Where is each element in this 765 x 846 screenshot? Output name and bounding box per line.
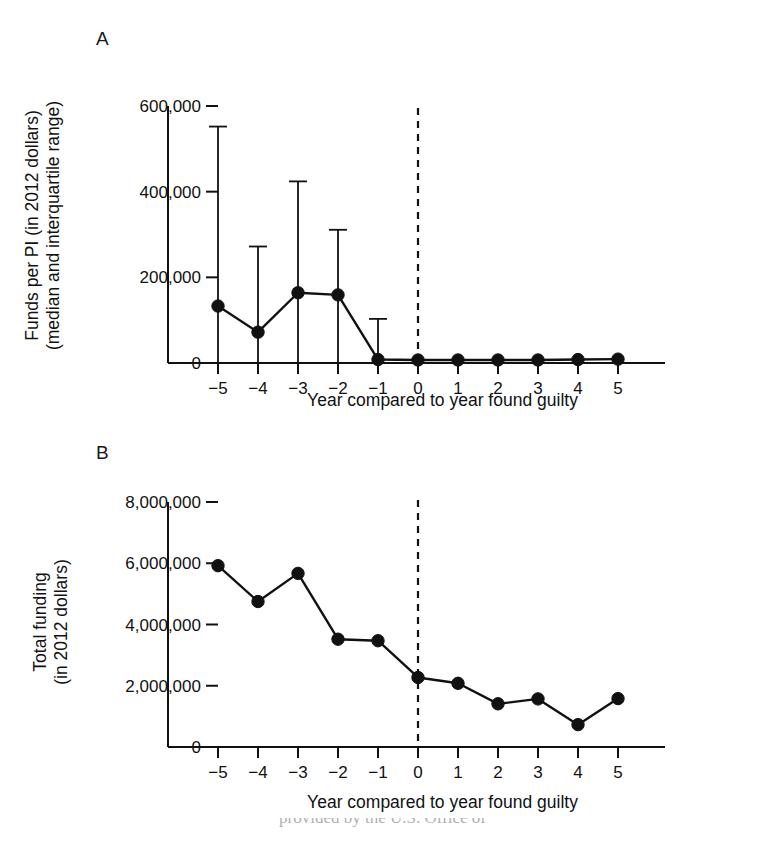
panel-b-x-axis-title: Year compared to year found guilty <box>0 792 765 813</box>
data-point-marker <box>372 635 384 647</box>
x-tick-label: 2 <box>493 763 502 782</box>
x-tick-label: 1 <box>453 763 462 782</box>
y-tick-label: 0 <box>192 354 201 373</box>
panel-b: B Total funding (in 2012 dollars) 02,000… <box>0 420 765 846</box>
x-tick-label: 5 <box>613 763 622 782</box>
data-point-marker <box>332 289 344 301</box>
y-tick-label: 600,000 <box>140 97 201 116</box>
data-point-marker <box>452 677 464 689</box>
data-point-marker <box>332 633 344 645</box>
data-point-marker <box>572 718 584 730</box>
y-tick-label: 2,000,000 <box>125 677 201 696</box>
data-point-marker <box>612 353 624 365</box>
data-point-marker <box>292 287 304 299</box>
data-point-marker <box>252 326 264 338</box>
data-point-marker <box>212 560 224 572</box>
y-tick-label: 400,000 <box>140 183 201 202</box>
x-tick-label: 4 <box>573 763 582 782</box>
y-tick-label: 4,000,000 <box>125 616 201 635</box>
x-tick-label: −4 <box>248 763 267 782</box>
data-point-marker <box>452 354 464 366</box>
panel-a-y-ticks: 0200,000400,000600,000 <box>140 97 218 373</box>
panel-a-x-axis-title: Year compared to year found guilty <box>0 390 765 411</box>
x-tick-label: −1 <box>368 763 387 782</box>
data-point-marker <box>252 595 264 607</box>
x-tick-label: −5 <box>208 763 227 782</box>
caption-fragment-strip: provided by the U.S. Office of <box>0 818 765 846</box>
panel-a-data-points <box>212 287 624 367</box>
panel-b-plot: 02,000,0004,000,0006,000,0008,000,000 −5… <box>0 420 765 846</box>
data-point-marker <box>492 698 504 710</box>
data-point-marker <box>412 354 424 366</box>
data-point-marker <box>532 354 544 366</box>
y-tick-label: 6,000,000 <box>125 554 201 573</box>
panel-b-x-ticks: −5−4−3−2−1012345 <box>208 747 622 782</box>
y-tick-label: 200,000 <box>140 268 201 287</box>
data-point-marker <box>372 353 384 365</box>
y-tick-label: 8,000,000 <box>125 493 201 512</box>
caption-fragment: provided by the U.S. Office of <box>0 818 765 828</box>
panel-a-series-line <box>218 293 618 360</box>
data-point-marker <box>492 354 504 366</box>
panel-a: A Funds per PI (in 2012 dollars) (median… <box>0 0 765 420</box>
data-point-marker <box>412 671 424 683</box>
x-tick-label: 3 <box>533 763 542 782</box>
data-point-marker <box>532 693 544 705</box>
data-point-marker <box>212 300 224 312</box>
data-point-marker <box>292 567 304 579</box>
data-point-marker <box>572 353 584 365</box>
x-tick-label: −3 <box>288 763 307 782</box>
x-tick-label: 0 <box>413 763 422 782</box>
x-tick-label: −2 <box>328 763 347 782</box>
panel-a-error-bars <box>209 127 387 363</box>
data-point-marker <box>612 692 624 704</box>
y-tick-label: 0 <box>192 738 201 757</box>
panel-b-y-ticks: 02,000,0004,000,0006,000,0008,000,000 <box>125 493 218 757</box>
figure-root: A Funds per PI (in 2012 dollars) (median… <box>0 0 765 846</box>
panel-a-plot: 0200,000400,000600,000 −5−4−3−2−1012345 <box>0 0 765 420</box>
